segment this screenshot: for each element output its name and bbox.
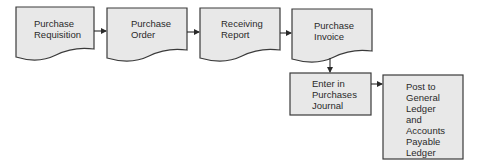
node-enter-purchases-journal-label: Enter in Purchases Journal [312,78,357,111]
node-purchase-order-label: Purchase Order [131,18,171,40]
node-post-general-ledger-label: Post to General Ledger and Accounts Paya… [406,81,445,158]
node-purchase-invoice-label: Purchase Invoice [314,20,354,42]
node-purchase-requisition-label: Purchase Requisition [34,18,81,40]
node-receiving-report-label: Receiving Report [221,18,263,40]
